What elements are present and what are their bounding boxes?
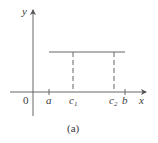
origin-label: 0 <box>23 94 29 106</box>
y-axis-label: y <box>21 5 27 17</box>
tick-label-b: b <box>122 94 128 106</box>
tick-label-c1: c1 <box>69 94 77 108</box>
constant-function-diagram: y x 0 a c1 c2 b (a) <box>0 0 158 143</box>
figure-caption: (a) <box>67 122 80 135</box>
tick-label-a: a <box>46 94 52 106</box>
tick-label-c2: c2 <box>109 94 118 108</box>
x-axis-label: x <box>138 94 144 106</box>
